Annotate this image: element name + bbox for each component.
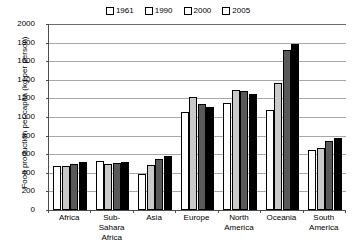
legend-entry-1961: 1961: [106, 6, 134, 15]
bar: [147, 165, 155, 210]
x-tick-label: Sub-Sahara Africa: [90, 213, 132, 243]
bar: [138, 174, 146, 210]
bar: [249, 94, 257, 210]
y-tick-label-1600: 1600: [0, 57, 35, 65]
bar: [181, 112, 189, 210]
x-tick-label: Europe: [175, 213, 217, 223]
legend-swatch-1961: [106, 7, 114, 15]
bar: [121, 162, 129, 210]
y-tick-label-600: 600: [0, 150, 35, 158]
legend-label-2000: 2000: [194, 6, 212, 15]
bar: [334, 138, 342, 210]
bar: [232, 90, 240, 210]
y-tick-label-1400: 1400: [0, 76, 35, 84]
y-tick-label-1000: 1000: [0, 113, 35, 121]
bar: [104, 164, 112, 210]
bar: [189, 97, 197, 210]
bar: [291, 44, 299, 210]
bar: [325, 141, 333, 210]
legend-label-1961: 1961: [116, 6, 134, 15]
plot-area: 2000180016001400120010008006004002000: [48, 24, 346, 210]
legend-swatch-1990: [145, 7, 153, 15]
x-tick-label: Africa: [48, 213, 90, 223]
legend-entry-1990: 1990: [145, 6, 173, 15]
bar: [223, 103, 231, 210]
x-tick-label: Oceania: [260, 213, 302, 223]
x-tick-label: North America: [218, 213, 260, 233]
x-axis-tick-labels: AfricaSub-Sahara AfricaAsiaEuropeNorth A…: [48, 213, 345, 247]
bar: [70, 164, 78, 211]
bar-group: [181, 24, 215, 210]
y-tick-label-2000: 2000: [0, 20, 35, 28]
bar: [53, 166, 61, 210]
bar: [198, 104, 206, 210]
bar: [206, 107, 214, 210]
x-tick: [48, 210, 49, 213]
y-tick-label-400: 400: [0, 169, 35, 177]
y-tick-label-800: 800: [0, 132, 35, 140]
x-tick: [345, 210, 346, 213]
bar-group: [223, 24, 257, 210]
x-tick-label: South America: [303, 213, 345, 233]
bar-group: [53, 24, 87, 210]
bar-group: [138, 24, 172, 210]
legend-label-2005: 2005: [232, 6, 250, 15]
bar: [113, 163, 121, 210]
y-tick-label-0: 0: [0, 206, 35, 214]
bar: [274, 83, 282, 210]
bar-group: [308, 24, 342, 210]
bar: [283, 50, 291, 210]
y-tick-label-1200: 1200: [0, 94, 35, 102]
bar-series-container: [49, 24, 346, 210]
chart-legend: 1961 1990 2000 2005: [0, 6, 356, 15]
y-tick-label-200: 200: [0, 187, 35, 195]
bar: [240, 91, 248, 210]
legend-label-1990: 1990: [155, 6, 173, 15]
bar: [164, 156, 172, 210]
bar-group: [266, 24, 300, 210]
bar: [317, 148, 325, 210]
x-tick-label: Asia: [133, 213, 175, 223]
y-tick-label-1800: 1800: [0, 39, 35, 47]
gridline-0: [49, 210, 346, 211]
bar-group: [96, 24, 130, 210]
legend-swatch-2000: [184, 7, 192, 15]
bar: [62, 166, 70, 210]
legend-entry-2005: 2005: [222, 6, 250, 15]
legend-swatch-2005: [222, 7, 230, 15]
bar: [308, 150, 316, 210]
bar: [155, 159, 163, 210]
legend-entry-2000: 2000: [184, 6, 212, 15]
bar: [96, 161, 104, 210]
bar: [79, 162, 87, 210]
bar: [266, 110, 274, 210]
bar-chart: 1961 1990 2000 2005 Food production per-…: [0, 0, 356, 248]
